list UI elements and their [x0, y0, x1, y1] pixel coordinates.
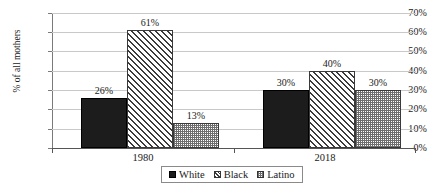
- legend-swatch-icon: [169, 171, 176, 178]
- gridline: [52, 32, 416, 33]
- y-axis-title: % of all mothers: [12, 18, 22, 104]
- bar-black-1980: 61%: [127, 30, 173, 148]
- bar-latino-2018: 30%: [355, 90, 401, 148]
- gridline: [52, 71, 416, 72]
- grouped-bar-chart: % of all mothers 70% 60% 50% 40% 30% 20%…: [0, 0, 427, 193]
- bar-value-label: 30%: [369, 77, 387, 88]
- bar-white-2018: 30%: [263, 90, 309, 148]
- bar-black-2018: 40%: [309, 71, 355, 148]
- legend-item-black: Black: [214, 169, 249, 181]
- legend-label: Black: [224, 169, 249, 181]
- bar-white-1980: 26%: [81, 98, 127, 148]
- bar-value-label: 61%: [141, 17, 159, 28]
- legend-label: White: [179, 169, 205, 181]
- legend-swatch-icon: [214, 171, 221, 178]
- x-category-label-1980: 1980: [52, 152, 234, 164]
- bar-value-label: 40%: [323, 58, 341, 69]
- x-category-label-2018: 2018: [234, 152, 416, 164]
- legend-swatch-icon: [257, 171, 264, 178]
- bar-value-label: 30%: [277, 77, 295, 88]
- bar-value-label: 13%: [187, 110, 205, 121]
- legend-item-latino: Latino: [257, 169, 294, 181]
- bar-value-label: 26%: [95, 85, 113, 96]
- plot-area: 26% 61% 13% 30% 40% 30%: [52, 13, 416, 148]
- legend-label: Latino: [267, 169, 294, 181]
- bar-latino-1980: 13%: [173, 123, 219, 148]
- gridline: [52, 13, 416, 14]
- chart-legend: White Black Latino: [161, 166, 303, 183]
- legend-item-white: White: [169, 169, 205, 181]
- gridline: [52, 51, 416, 52]
